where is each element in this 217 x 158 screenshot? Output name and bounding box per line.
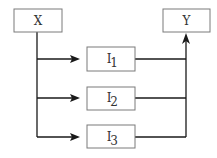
edges-to-y	[135, 33, 190, 137]
parallel-mediation-diagram: X Y I 1 I 2 I 3	[0, 0, 217, 158]
node-y: Y	[163, 9, 210, 32]
edges-from-x	[37, 32, 80, 141]
node-y-label: Y	[182, 14, 192, 28]
node-x-label: X	[34, 14, 43, 28]
node-x: X	[14, 9, 62, 32]
node-i3-subscript: 3	[110, 134, 118, 148]
node-i2: I 2	[87, 87, 135, 110]
node-i2-subscript: 2	[110, 95, 118, 109]
node-i1: I 1	[87, 47, 135, 71]
node-i3: I 3	[87, 125, 135, 148]
node-i1-subscript: 1	[110, 56, 118, 70]
